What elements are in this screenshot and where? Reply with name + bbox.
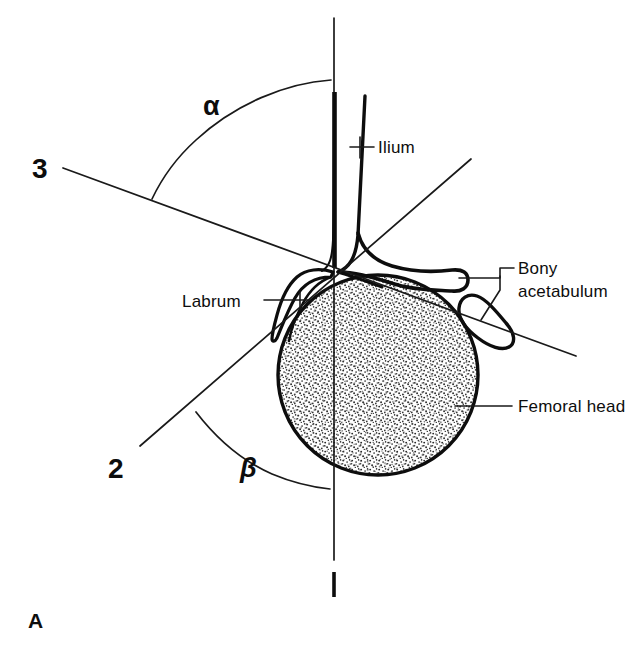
label-alpha-angle: α — [203, 91, 220, 121]
label-bony-acetabulum-line2: acetabulum — [518, 282, 608, 301]
label-reference-line-2-number: 2 — [108, 453, 124, 484]
label-femoral-head: Femoral head — [518, 397, 625, 416]
label-bony-acetabulum-line1: Bony — [518, 259, 558, 278]
hip-angle-diagram: Ilium Bony acetabulum Labrum Femoral hea… — [0, 0, 644, 650]
label-ilium: Ilium — [378, 138, 415, 157]
label-beta-angle: β — [239, 453, 257, 483]
femoral-head-structure — [278, 275, 478, 475]
figure-container: Ilium Bony acetabulum Labrum Femoral hea… — [0, 0, 644, 650]
panel-label-a: A — [28, 609, 43, 632]
label-labrum: Labrum — [182, 292, 241, 311]
label-reference-line-3-number: 3 — [32, 153, 48, 184]
